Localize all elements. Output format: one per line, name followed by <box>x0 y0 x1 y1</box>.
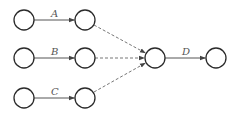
node-1 <box>14 10 34 30</box>
activity-d-label: D <box>181 46 190 57</box>
dummy-arrow-bottom <box>94 63 146 92</box>
node-4 <box>75 48 95 68</box>
activity-a-label: A <box>50 8 58 19</box>
node-3 <box>14 48 34 68</box>
node-2 <box>75 10 95 30</box>
node-5 <box>14 88 34 108</box>
node-7 <box>145 48 165 68</box>
node-6 <box>75 88 95 108</box>
activity-b-label: B <box>50 46 58 57</box>
network-diagram: A B C D <box>0 0 236 119</box>
dummy-arrow-top <box>94 25 146 53</box>
node-8 <box>206 48 226 68</box>
activity-c-label: C <box>51 86 59 97</box>
